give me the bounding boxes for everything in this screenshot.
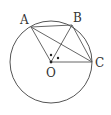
angle-mark-dot-1 xyxy=(50,54,52,56)
geometry-diagram: A B C O xyxy=(0,0,111,115)
label-b: B xyxy=(73,11,82,25)
center-point-o xyxy=(50,61,53,64)
angle-mark-dot-2 xyxy=(57,57,59,59)
label-c: C xyxy=(95,56,104,70)
label-o: O xyxy=(46,66,56,80)
segment-bo xyxy=(51,25,72,62)
segment-ab xyxy=(31,25,72,27)
label-a: A xyxy=(19,13,29,27)
